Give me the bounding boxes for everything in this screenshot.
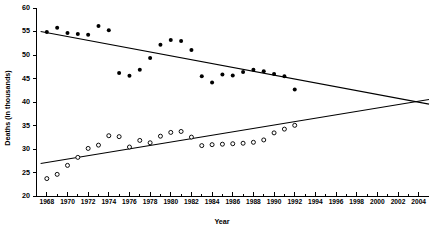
data-point: [148, 141, 152, 145]
y-tick-label: 60: [22, 3, 30, 12]
data-point: [262, 138, 266, 142]
y-tick-label: 55: [22, 26, 30, 35]
x-tick-label: 1982: [184, 198, 199, 205]
data-point: [76, 155, 80, 159]
data-point: [127, 145, 131, 149]
data-point: [293, 123, 297, 127]
data-point: [65, 31, 69, 35]
y-tick-label: 25: [22, 168, 30, 177]
data-point: [148, 56, 152, 60]
data-point: [76, 32, 80, 36]
x-tick-label: 1978: [143, 198, 158, 205]
data-point: [158, 134, 162, 138]
data-point: [158, 43, 162, 47]
x-tick-label: 1986: [225, 198, 240, 205]
data-point: [45, 177, 49, 181]
y-tick-label: 20: [22, 191, 30, 200]
y-tick-label: 30: [22, 144, 30, 153]
x-tick-label: 1976: [122, 198, 137, 205]
x-axis-tick-labels: 1968197019721974197619781980198219841986…: [39, 198, 426, 205]
data-point: [231, 73, 235, 77]
data-point: [169, 38, 173, 42]
data-point: [251, 68, 255, 72]
y-axis-ticks: [33, 8, 37, 197]
series-filled-circles: [45, 24, 297, 92]
data-point: [55, 172, 59, 176]
data-point: [210, 80, 214, 84]
data-point: [293, 88, 297, 92]
data-point: [200, 74, 204, 78]
data-point: [200, 144, 204, 148]
x-tick-label: 1980: [163, 198, 178, 205]
data-point: [241, 141, 245, 145]
data-point: [96, 24, 100, 28]
data-point: [272, 72, 276, 76]
x-tick-label: 1990: [267, 198, 282, 205]
x-tick-label: 1992: [287, 198, 302, 205]
data-point: [189, 135, 193, 139]
data-point: [117, 71, 121, 75]
data-point: [282, 127, 286, 131]
data-point: [65, 163, 69, 167]
data-point: [220, 142, 224, 146]
x-tick-label: 1996: [329, 198, 344, 205]
data-point: [138, 68, 142, 72]
y-axis-title: Deaths (in thousands): [3, 70, 12, 146]
chart-page: 202530354045505560 Deaths (in thousands)…: [0, 0, 444, 232]
x-tick-label: 1974: [101, 198, 116, 205]
data-point: [179, 129, 183, 133]
x-tick-label: 1994: [308, 198, 323, 205]
x-tick-label: 1970: [60, 198, 75, 205]
data-point: [262, 69, 266, 73]
data-point: [241, 70, 245, 74]
x-tick-label: 1988: [246, 198, 261, 205]
data-point: [86, 33, 90, 37]
x-tick-label: 1972: [81, 198, 96, 205]
data-point: [179, 39, 183, 43]
scatter-plot: 202530354045505560 Deaths (in thousands)…: [0, 0, 444, 232]
data-point: [220, 72, 224, 76]
trend-line-filled-circles: [41, 32, 429, 105]
series-open-circles: [45, 123, 297, 180]
x-axis-title: Year: [214, 217, 229, 226]
x-tick-label: 2004: [411, 198, 426, 205]
data-point: [117, 135, 121, 139]
data-point: [169, 130, 173, 134]
x-tick-label: 1998: [349, 198, 364, 205]
data-point: [210, 143, 214, 147]
x-axis-ticks: [47, 192, 419, 197]
data-point: [127, 74, 131, 78]
data-point: [55, 26, 59, 30]
x-axis: 1968197019721974197619781980198219841986…: [37, 192, 430, 226]
data-point: [86, 146, 90, 150]
data-point: [107, 134, 111, 138]
x-tick-label: 2002: [391, 198, 406, 205]
data-point: [272, 131, 276, 135]
x-tick-label: 2000: [370, 198, 385, 205]
data-point: [96, 143, 100, 147]
y-tick-label: 35: [22, 121, 30, 130]
data-point: [251, 140, 255, 144]
x-tick-label: 1984: [205, 198, 220, 205]
y-tick-label: 50: [22, 50, 30, 59]
y-axis: 202530354045505560 Deaths (in thousands): [3, 3, 37, 201]
y-tick-label: 40: [22, 97, 30, 106]
y-axis-tick-labels: 202530354045505560: [22, 3, 30, 201]
data-point: [282, 74, 286, 78]
data-point: [231, 142, 235, 146]
data-point: [138, 138, 142, 142]
data-point: [107, 28, 111, 32]
data-point: [189, 48, 193, 52]
x-tick-label: 1968: [39, 198, 54, 205]
data-point: [45, 30, 49, 34]
trend-line-open-circles: [41, 99, 429, 163]
y-tick-label: 45: [22, 74, 30, 83]
